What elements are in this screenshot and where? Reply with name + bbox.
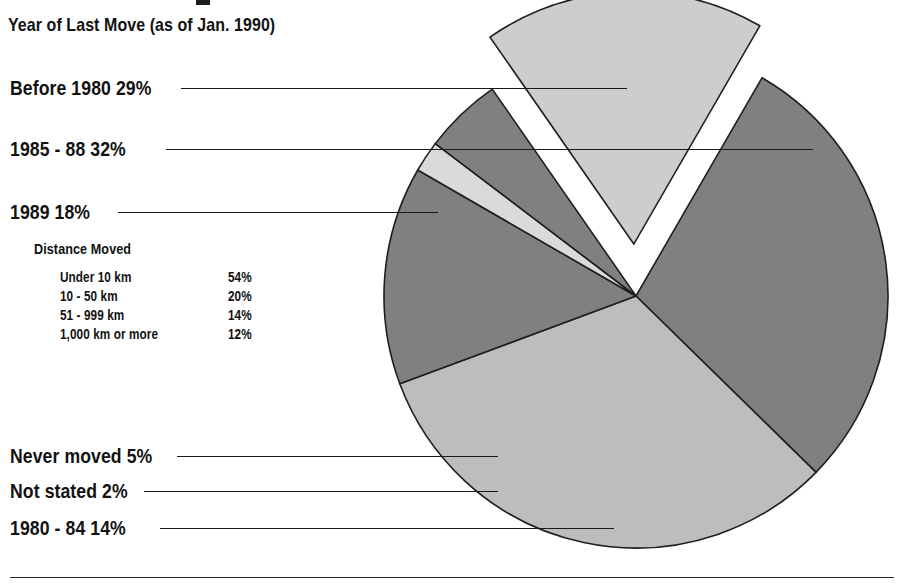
distance-moved-label: 1,000 km or more xyxy=(60,325,158,344)
leader-line-not-stated xyxy=(144,491,498,492)
callout-label-never-moved: Never moved 5% xyxy=(10,444,152,468)
distance-moved-label: 10 - 50 km xyxy=(60,287,118,306)
callout-label-before-1980: Before 1980 29% xyxy=(10,76,151,100)
leader-line-1980-84 xyxy=(160,528,614,529)
distance-moved-label: Under 10 km xyxy=(60,268,132,287)
callout-label-1985-88: 1985 - 88 32% xyxy=(10,137,126,161)
distance-moved-label: 51 - 999 km xyxy=(60,306,124,325)
pie-slices: Before 1980 29%1985 - 88 32%1980 - 84 14… xyxy=(384,0,888,548)
callout-1980-84: 1980 - 84 14% xyxy=(10,516,148,540)
callout-label-1989: 1989 18% xyxy=(10,200,90,224)
distance-moved-value: 12% xyxy=(228,325,252,344)
callout-never-moved: Never moved 5% xyxy=(10,444,179,468)
distance-moved-value: 54% xyxy=(228,268,252,287)
callout-label-1980-84: 1980 - 84 14% xyxy=(10,516,126,540)
footer-rule xyxy=(10,577,894,578)
leader-line-1985-88 xyxy=(166,149,813,150)
leader-line-before-1980 xyxy=(181,88,627,89)
chart-subtitle: Year of Last Move (as of Jan. 1990) xyxy=(8,14,275,36)
distance-moved-value: 14% xyxy=(228,306,252,325)
callout-1989: 1989 18% xyxy=(10,200,105,224)
callout-not-stated: Not stated 2% xyxy=(10,479,150,503)
leader-line-1989 xyxy=(118,212,438,213)
distance-moved-value: 20% xyxy=(228,287,252,306)
figure-canvas: Before 1980 29%1985 - 88 32%1980 - 84 14… xyxy=(0,0,907,587)
callout-1985-88: 1985 - 88 32% xyxy=(10,137,148,161)
callout-label-not-stated: Not stated 2% xyxy=(10,479,128,503)
callout-before-1980: Before 1980 29% xyxy=(10,76,178,100)
distance-moved-title: Distance Moved xyxy=(34,240,131,258)
leader-line-never-moved xyxy=(177,456,498,457)
